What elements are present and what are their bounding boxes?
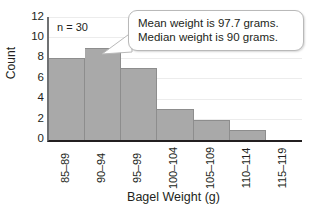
x-tick-slot: 100–104 [155, 142, 191, 188]
x-axis-tick-labels: 85–8990–9495–99100–104105–109110–114115–… [47, 142, 300, 188]
x-tick-slot: 105–109 [192, 142, 228, 188]
bar [157, 109, 193, 140]
callout-line: Mean weight is 97.7 grams. [138, 16, 295, 30]
x-tick-slot: 115–119 [264, 142, 300, 188]
y-axis-tick-labels: 12 10 8 6 4 2 0 [24, 11, 44, 141]
sample-size-annotation: n = 30 [57, 21, 88, 33]
y-axis-title: Count [4, 28, 18, 98]
y-tick-label: 10 [31, 31, 44, 42]
y-tick-label: 6 [38, 72, 44, 83]
bar [194, 120, 230, 141]
x-tick-slot: 95–99 [119, 142, 155, 188]
statistics-callout: Mean weight is 97.7 grams. Median weight… [128, 10, 304, 51]
x-tick-label: 100–104 [167, 147, 179, 189]
x-tick-slot: 85–89 [47, 142, 83, 188]
x-tick-label: 95–99 [131, 153, 143, 183]
x-tick-label: 115–119 [276, 148, 288, 189]
y-tick-label: 12 [31, 11, 44, 22]
bar [121, 68, 157, 140]
x-axis-title: Bagel Weight (g) [47, 190, 300, 204]
y-tick-label: 0 [38, 133, 44, 144]
x-tick-slot: 90–94 [83, 142, 119, 188]
x-tick-label: 105–109 [204, 147, 216, 189]
bar-slot [49, 17, 85, 140]
bar [49, 58, 85, 140]
callout-line: Median weight is 90 grams. [138, 30, 295, 44]
bar [85, 48, 121, 140]
histogram-chart: Count 12 10 8 6 4 2 0 n = 30 85–8990–949… [0, 0, 315, 215]
y-tick-label: 4 [38, 92, 44, 103]
x-tick-label: 90–94 [95, 153, 107, 183]
bar [230, 130, 266, 140]
y-tick-label: 8 [38, 51, 44, 62]
x-tick-label: 85–89 [59, 153, 71, 183]
x-tick-label: 110–114 [240, 148, 252, 189]
y-tick-label: 2 [38, 113, 44, 124]
x-tick-slot: 110–114 [228, 142, 264, 188]
